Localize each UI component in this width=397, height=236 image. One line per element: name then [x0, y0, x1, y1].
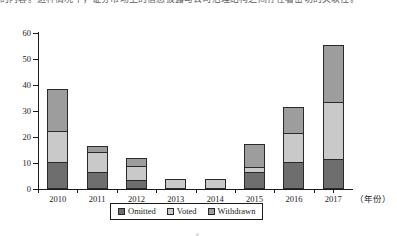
bar-column[interactable] [283, 108, 304, 189]
bar-segment-voted[interactable] [87, 152, 108, 174]
stacked-bar-chart: 0102030405060 20102011201220132014201520… [0, 11, 397, 229]
bar-column[interactable] [165, 180, 186, 189]
bar-column[interactable] [205, 180, 226, 189]
bar-segment-omitted[interactable] [47, 162, 68, 189]
legend-item-label: Omitted [128, 207, 156, 216]
bar-column[interactable] [126, 159, 147, 189]
bar-segment-voted[interactable] [205, 179, 226, 189]
bar-column[interactable] [244, 145, 265, 189]
legend-item-withdrawn[interactable]: Withdrawn [208, 207, 256, 216]
legend-item-omitted[interactable]: Omitted [118, 207, 156, 216]
bar-segment-withdrawn[interactable] [47, 89, 68, 132]
legend-item-label: Voted [177, 207, 197, 216]
bar-segment-omitted[interactable] [283, 162, 304, 189]
bar-column[interactable] [47, 90, 68, 189]
bar-segment-withdrawn[interactable] [323, 45, 344, 103]
legend-item-label: Withdrawn [218, 207, 256, 216]
bar-segment-voted[interactable] [47, 131, 68, 163]
bar-segment-omitted[interactable] [126, 180, 147, 189]
bar-column[interactable] [87, 147, 108, 189]
bar-segment-withdrawn[interactable] [87, 146, 108, 152]
legend-swatch-icon [167, 208, 174, 215]
bar-segment-omitted[interactable] [323, 159, 344, 189]
legend-swatch-icon [118, 208, 125, 215]
page-top-cut-text: 的内容。这种情况下，证券市场上的信息披露与公司治理结构之间存在着密切的关联性。 [0, 0, 397, 11]
bar-segment-withdrawn[interactable] [283, 107, 304, 134]
page-top-cut-text-line: 的内容。这种情况下，证券市场上的信息披露与公司治理结构之间存在着密切的关联性。 [0, 0, 359, 4]
bar-segment-voted[interactable] [323, 102, 344, 160]
bar-segment-withdrawn[interactable] [126, 158, 147, 167]
bar-segment-withdrawn[interactable] [244, 144, 265, 168]
legend-item-voted[interactable]: Voted [167, 207, 197, 216]
bar-series-container [0, 11, 397, 229]
bar-column[interactable] [323, 46, 344, 189]
chart-legend: OmittedVotedWithdrawn [110, 203, 263, 220]
bar-segment-omitted[interactable] [87, 172, 108, 189]
legend-swatch-icon [208, 208, 215, 215]
bar-segment-voted[interactable] [126, 166, 147, 181]
bar-segment-voted[interactable] [283, 133, 304, 163]
bar-segment-omitted[interactable] [244, 172, 265, 189]
bar-segment-voted[interactable] [165, 179, 186, 189]
